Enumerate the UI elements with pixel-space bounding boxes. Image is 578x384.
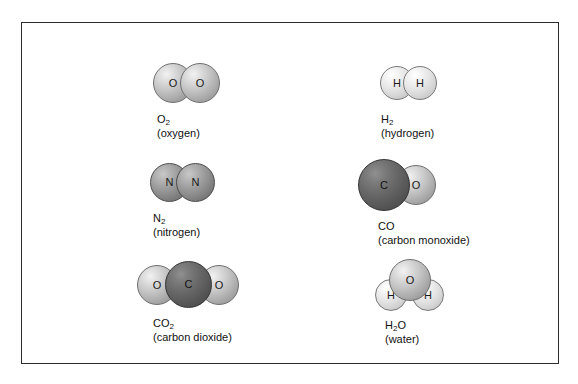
diagram-frame: O O O2 (oxygen) H H H2 (hydrogen) bbox=[21, 22, 559, 364]
molecule-hydrogen: H H H2 (hydrogen) bbox=[380, 66, 442, 104]
formula-oxygen: O2 bbox=[157, 113, 200, 127]
caption-nitrogen: N2 (nitrogen) bbox=[153, 212, 200, 239]
common-name-carbon-monoxide: (carbon monoxide) bbox=[378, 234, 470, 247]
molecule-nitrogen: N N N2 (nitrogen) bbox=[150, 163, 220, 205]
atom-label: O bbox=[196, 77, 205, 89]
atom-label: O bbox=[406, 274, 415, 286]
common-name-hydrogen: (hydrogen) bbox=[381, 127, 434, 140]
formula-carbon-dioxide: CO2 bbox=[153, 317, 232, 331]
molecule-carbon-dioxide: O O C CO2 (carbon dioxide) bbox=[137, 261, 241, 309]
atom-carbon: C bbox=[358, 159, 410, 211]
model-nitrogen: N N bbox=[150, 163, 220, 205]
molecule-carbon-monoxide: O C CO (carbon monoxide) bbox=[358, 159, 444, 211]
atom-carbon: C bbox=[165, 261, 212, 308]
caption-oxygen: O2 (oxygen) bbox=[157, 113, 200, 140]
atom-oxygen: O bbox=[389, 259, 431, 301]
molecule-water: H H O H2O (water) bbox=[375, 259, 449, 311]
common-name-nitrogen: (nitrogen) bbox=[153, 226, 200, 239]
formula-water: H2O bbox=[385, 319, 419, 333]
atom-label: O bbox=[153, 279, 162, 291]
atom-label: O bbox=[412, 179, 421, 191]
model-carbon-monoxide: O C bbox=[358, 159, 444, 211]
model-water: H H O bbox=[375, 259, 449, 311]
atom-label: H bbox=[416, 77, 424, 89]
caption-water: H2O (water) bbox=[385, 319, 419, 346]
model-hydrogen: H H bbox=[380, 66, 442, 104]
model-carbon-dioxide: O O C bbox=[137, 261, 241, 309]
atom-oxygen-2: O bbox=[180, 63, 220, 103]
common-name-oxygen: (oxygen) bbox=[157, 127, 200, 140]
atom-hydrogen-2: H bbox=[403, 66, 437, 100]
atom-label: C bbox=[185, 278, 193, 290]
atom-nitrogen-2: N bbox=[176, 163, 215, 202]
caption-carbon-dioxide: CO2 (carbon dioxide) bbox=[153, 317, 232, 344]
formula-carbon-monoxide: CO bbox=[378, 220, 470, 234]
atom-label: H bbox=[393, 77, 401, 89]
model-oxygen: O O bbox=[153, 63, 223, 107]
formula-nitrogen: N2 bbox=[153, 212, 200, 226]
common-name-carbon-dioxide: (carbon dioxide) bbox=[153, 331, 232, 344]
atom-label: N bbox=[166, 176, 174, 188]
molecule-oxygen: O O O2 (oxygen) bbox=[153, 63, 223, 107]
atom-label: N bbox=[192, 176, 200, 188]
atom-label: O bbox=[169, 77, 178, 89]
atom-label: O bbox=[215, 279, 224, 291]
common-name-water: (water) bbox=[385, 333, 419, 346]
formula-hydrogen: H2 bbox=[381, 113, 434, 127]
caption-hydrogen: H2 (hydrogen) bbox=[381, 113, 434, 140]
atom-label: C bbox=[380, 179, 388, 191]
caption-carbon-monoxide: CO (carbon monoxide) bbox=[378, 220, 470, 247]
